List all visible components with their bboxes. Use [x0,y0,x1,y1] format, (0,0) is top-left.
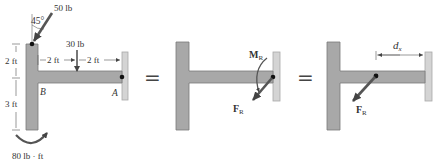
couple-moment-label: 80 lb · ft [12,151,44,161]
equals-sign-2: = [297,65,314,89]
force-30lb-label: 30 lb [66,39,85,49]
point-a-dot [120,75,125,80]
panel-single-resultant: dx FR [327,39,432,130]
dim-3ft-label: 3 ft [5,99,18,109]
distance-dx-label: dx [393,39,403,53]
force-50lb-label: 50 lb [54,3,73,13]
dim-2ft-a-label: 2 ft [47,55,60,65]
resultant-force-label: FR [233,103,244,116]
wall-support [425,52,432,101]
point-b-label: B [40,87,46,97]
load-point-dot [30,42,35,47]
equivalent-force-system-diagram: 45° 50 lb 30 lb 2 ft 2 ft 2 ft 3 ft B A … [0,0,435,162]
panel-original-system: 45° 50 lb 30 lb 2 ft 2 ft 2 ft 3 ft B A … [5,3,128,161]
point-a-label: A [111,88,118,98]
couple-moment-arc [16,133,47,143]
dim-2ft-vertical-label: 2 ft [5,56,18,66]
dim-2ft-b-label: 2 ft [87,55,100,65]
resultant-moment-label: MR [249,49,263,62]
angle-label: 45° [31,16,45,26]
resultant-force-label: FR [356,104,367,117]
panel-resultant-at-a: MR FR [176,42,280,130]
equals-sign-1: = [144,65,161,89]
